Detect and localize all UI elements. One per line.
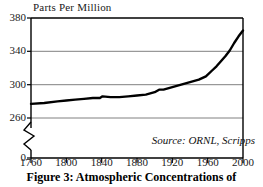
x-tick-label-2000: 2000: [226, 157, 260, 168]
y-axis-break-symbol: [24, 122, 34, 150]
figure-caption: Figure 3: Atmospheric Concentrations of: [0, 170, 263, 185]
gridlines: [31, 51, 243, 118]
x-tick-label-1960: 1960: [191, 157, 225, 168]
y-tick-label-300: 300: [0, 79, 26, 90]
data-series-line: [31, 31, 243, 104]
x-tick-label-1880: 1880: [120, 157, 154, 168]
x-tick-label-1800: 1800: [49, 157, 83, 168]
y-tick-label-340: 340: [0, 45, 26, 56]
x-tick-label-1760: 1760: [14, 157, 48, 168]
figure-container: Parts Per Million: [0, 0, 263, 187]
y-tick-label-380: 380: [0, 12, 26, 23]
source-annotation: Source: ORNL, Scripps: [152, 134, 255, 146]
x-tick-label-1840: 1840: [85, 157, 119, 168]
y-tick-label-260: 260: [0, 112, 26, 123]
x-tick-label-1920: 1920: [155, 157, 189, 168]
